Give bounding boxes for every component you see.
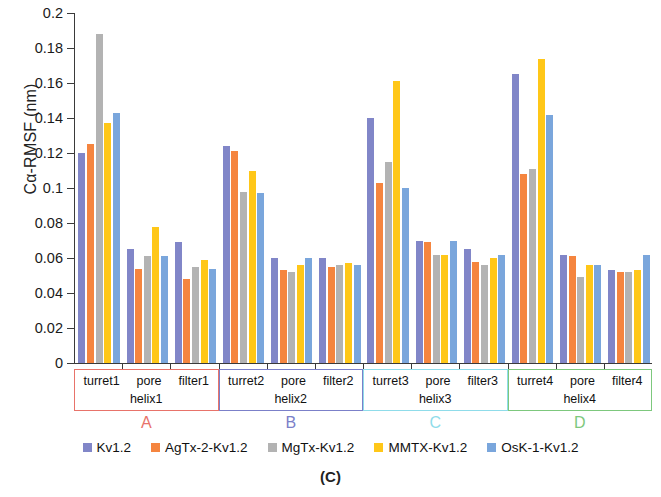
bar — [240, 192, 247, 364]
bar — [280, 270, 287, 363]
y-axis-tick-label: 0.1 — [43, 180, 63, 196]
bar — [634, 270, 641, 363]
bar — [529, 169, 536, 363]
category-group-b: turret2porefilter2helix2B — [219, 369, 364, 411]
bar-cluster — [271, 13, 312, 363]
category-group-letter: C — [364, 414, 507, 432]
bar — [569, 256, 576, 363]
legend-swatch-icon — [151, 443, 160, 452]
y-axis-tick-label: 0.18 — [35, 40, 63, 56]
bar — [441, 255, 448, 364]
category-sublabels: turret1porefilter1 — [75, 372, 218, 390]
bar — [376, 183, 383, 363]
bar — [209, 269, 216, 364]
bar — [416, 241, 423, 364]
category-sublabel: turret1 — [83, 374, 119, 388]
legend-label: MMTX-Kv1.2 — [388, 440, 467, 455]
bar — [512, 74, 519, 363]
bar — [594, 265, 601, 363]
panel-caption: (C) — [0, 468, 661, 485]
legend-label: Kv1.2 — [97, 440, 132, 455]
bar — [104, 123, 111, 363]
y-axis-tick-label: 0.08 — [35, 215, 63, 231]
bar — [288, 272, 295, 363]
figure-panel-c: Cα-RMSF (nm) 00.020.040.060.080.10.120.1… — [0, 0, 661, 497]
bar — [625, 272, 632, 363]
y-axis-tick — [67, 83, 74, 84]
category-sublabel: pore — [570, 374, 595, 388]
category-helix-label: helix1 — [75, 390, 218, 408]
bar — [586, 265, 593, 363]
panel-caption-text: (C) — [320, 468, 341, 485]
bar — [450, 241, 457, 364]
bar — [538, 59, 545, 364]
bar — [257, 193, 264, 363]
y-axis-tick — [67, 153, 74, 154]
y-axis-tick-label: 0.16 — [35, 75, 63, 91]
category-sublabel: turret2 — [228, 374, 264, 388]
plot-area: 00.020.040.060.080.10.120.140.160.180.2 — [74, 13, 652, 364]
y-axis-tick-label: 0.2 — [43, 5, 63, 21]
category-group-letter: D — [509, 414, 652, 432]
category-sublabel: filter1 — [178, 374, 209, 388]
bar — [113, 113, 120, 363]
y-axis-tick — [67, 363, 74, 364]
bar — [223, 146, 230, 363]
bar — [560, 255, 567, 364]
bar — [231, 151, 238, 363]
y-axis-tick — [67, 13, 74, 14]
category-sublabel: filter2 — [323, 374, 354, 388]
bar — [402, 188, 409, 363]
y-axis-tick-label: 0.04 — [35, 285, 63, 301]
bar — [127, 249, 134, 363]
bar — [328, 267, 335, 363]
bar — [201, 260, 208, 363]
y-axis-tick-label: 0 — [55, 355, 63, 371]
legend-item-3: MgTx-Kv1.2 — [268, 440, 355, 455]
bar — [175, 242, 182, 363]
bar-cluster — [78, 13, 119, 363]
category-group-letter: A — [75, 414, 218, 432]
legend-swatch-icon — [268, 443, 277, 452]
category-sublabel: pore — [281, 374, 306, 388]
bar-cluster — [512, 13, 553, 363]
bar — [152, 227, 159, 364]
legend-item-5: OsK-1-Kv1.2 — [487, 440, 578, 455]
category-group-a: turret1porefilter1helix1A — [74, 369, 219, 411]
bar — [433, 255, 440, 364]
category-sublabel: turret4 — [517, 374, 553, 388]
category-sublabel: turret3 — [372, 374, 408, 388]
bar — [498, 255, 505, 364]
bar — [161, 256, 168, 363]
bar-cluster — [464, 13, 505, 363]
y-axis-tick-label: 0.02 — [35, 320, 63, 336]
category-group-boxes: turret1porefilter1helix1Aturret2porefilt… — [74, 369, 652, 413]
y-axis-tick-label: 0.06 — [35, 250, 63, 266]
bar — [490, 258, 497, 363]
legend-item-1: Kv1.2 — [83, 440, 132, 455]
category-helix-label: helix3 — [364, 390, 507, 408]
y-axis-tick — [67, 48, 74, 49]
bar — [183, 279, 190, 363]
bar — [520, 174, 527, 363]
category-helix-label: helix4 — [509, 390, 652, 408]
y-axis-tick-label: 0.12 — [35, 145, 63, 161]
bar-cluster — [367, 13, 408, 363]
bar — [577, 277, 584, 363]
legend-label: OsK-1-Kv1.2 — [501, 440, 578, 455]
bar-cluster — [223, 13, 264, 363]
bar — [135, 269, 142, 364]
category-group-d: turret4porefilter4helix4D — [508, 369, 653, 411]
bar-cluster — [560, 13, 601, 363]
chart-legend: Kv1.2AgTx-2-Kv1.2MgTx-Kv1.2MMTX-Kv1.2OsK… — [0, 440, 661, 455]
bar-cluster — [608, 13, 649, 363]
bar — [608, 270, 615, 363]
y-axis-tick — [67, 258, 74, 259]
category-sublabel: pore — [426, 374, 451, 388]
category-group-letter: B — [220, 414, 363, 432]
bar — [192, 267, 199, 363]
bar-series-container — [74, 13, 652, 364]
bar — [617, 272, 624, 363]
category-helix-label: helix2 — [220, 390, 363, 408]
bar — [305, 258, 312, 363]
